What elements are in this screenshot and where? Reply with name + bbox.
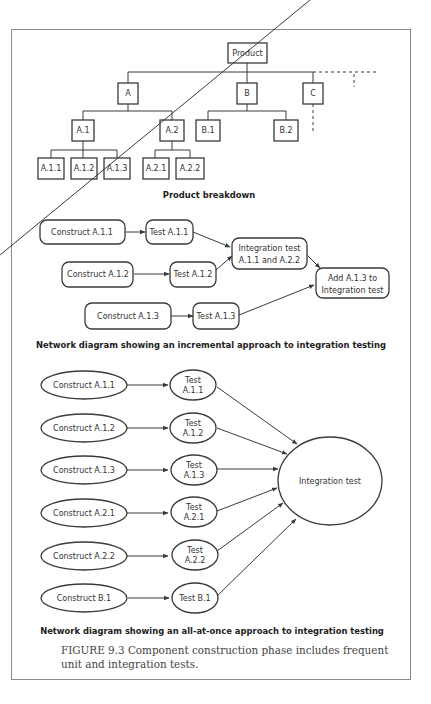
incremental-test-a11: Test A.1.1 [146,220,193,244]
product-breakdown-title: Product breakdown [163,190,255,200]
product-breakdown-tree: Product A B C A.1 A.2 B.1 B.2 [38,43,378,179]
svg-text:Integration test: Integration test [299,477,361,486]
svg-text:Test: Test [184,419,201,428]
tree-node-c: C [303,83,323,104]
svg-text:Construct A.1.1: Construct A.1.1 [51,228,113,237]
incremental-test-a13: Test A.1.3 [193,303,239,329]
svg-text:A.2.1: A.2.1 [184,513,205,522]
svg-text:A: A [125,89,131,98]
svg-text:A.1.3: A.1.3 [184,471,205,480]
svg-text:Test A.1.3: Test A.1.3 [196,312,236,321]
incremental-construct-a13: Construct A.1.3 [85,303,171,329]
svg-text:C: C [310,89,316,98]
svg-text:A.1.1: A.1.1 [183,386,204,395]
all-test-a21: Test A.2.1 [171,497,217,527]
figure-caption: FIGURE 9.3 Component construction phase … [61,643,391,671]
svg-text:B: B [244,89,250,98]
svg-text:A.2.2: A.2.2 [180,164,201,173]
all-construct-b1: Construct B.1 [41,584,127,612]
svg-text:A.1.1 and A.2.2: A.1.1 and A.2.2 [239,256,300,265]
all-integration-test: Integration test [278,437,382,525]
svg-text:Construct A.1.3: Construct A.1.3 [53,466,115,475]
svg-text:Construct B.1: Construct B.1 [57,594,111,603]
svg-text:Construct A.1.2: Construct A.1.2 [67,270,129,279]
all-test-b1: Test B.1 [172,583,218,613]
tree-node-b: B [237,83,257,104]
svg-text:B.1: B.1 [201,126,214,135]
tree-node-a11: A.1.1 [38,158,64,179]
tree-node-a22: A.2.2 [176,158,204,179]
svg-text:Construct A.2.2: Construct A.2.2 [53,552,115,561]
svg-text:A.1.2: A.1.2 [183,429,204,438]
svg-text:A.1.1: A.1.1 [41,164,62,173]
svg-text:Test: Test [185,503,202,512]
all-test-a13: Test A.1.3 [171,455,217,485]
svg-text:A.2: A.2 [166,126,179,135]
incremental-construct-a11: Construct A.1.1 [40,220,125,244]
svg-text:Test A.1.2: Test A.1.2 [173,270,213,279]
tree-node-a12: A.1.2 [71,158,97,179]
all-test-a22: Test A.2.2 [172,540,218,570]
incremental-title: Network diagram showing an incremental a… [36,340,386,350]
all-test-a11: Test A.1.1 [170,370,216,400]
svg-text:Test: Test [184,376,201,385]
svg-text:A.1: A.1 [77,126,90,135]
svg-text:Test A.1.1: Test A.1.1 [149,228,189,237]
all-construct-a11: Construct A.1.1 [41,371,127,399]
tree-node-a21: A.2.1 [143,158,169,179]
svg-text:Construct A.1.1: Construct A.1.1 [53,381,115,390]
all-at-once-title: Network diagram showing an all-at-once a… [40,626,384,636]
svg-text:Add A.1.3 to: Add A.1.3 to [328,274,377,283]
incremental-test-a12: Test A.1.2 [170,262,216,287]
svg-text:A.1.3: A.1.3 [107,164,128,173]
svg-text:A.1.2: A.1.2 [74,164,95,173]
all-construct-a22: Construct A.2.2 [41,542,127,570]
tree-node-b2: B.2 [274,120,298,141]
all-construct-a12: Construct A.1.2 [41,414,127,442]
svg-text:Integration test: Integration test [322,286,384,295]
svg-text:Construct A.2.1: Construct A.2.1 [53,509,115,518]
svg-text:Test B.1: Test B.1 [178,594,210,603]
all-construct-a13: Construct A.1.3 [41,456,127,484]
svg-text:A.2.1: A.2.1 [146,164,167,173]
all-construct-a21: Construct A.2.1 [41,499,127,527]
all-test-a12: Test A.1.2 [170,413,216,443]
tree-node-product: Product [228,43,267,63]
incremental-add-to-integration: Add A.1.3 to Integration test [316,268,389,298]
incremental-integration-test: Integration test A.1.1 and A.2.2 [232,238,307,269]
tree-node-a13: A.1.3 [104,158,130,179]
svg-text:Test: Test [185,461,202,470]
all-at-once-diagram: Construct A.1.1 Construct A.1.2 Construc… [41,370,382,613]
svg-text:Integration test: Integration test [239,244,301,253]
svg-text:Test: Test [186,546,203,555]
tree-node-a: A [118,83,138,104]
incremental-construct-a12: Construct A.1.2 [62,262,133,287]
tree-node-b1: B.1 [196,120,220,141]
figure-canvas: Product A B C A.1 A.2 B.1 B.2 [0,0,431,704]
svg-text:B.2: B.2 [279,126,292,135]
svg-text:Construct A.1.3: Construct A.1.3 [97,312,159,321]
svg-text:Product: Product [232,49,262,58]
tree-node-a2: A.2 [160,120,184,141]
svg-text:Construct A.1.2: Construct A.1.2 [53,424,115,433]
svg-text:A.2.2: A.2.2 [185,556,206,565]
tree-node-a1: A.1 [72,120,94,141]
